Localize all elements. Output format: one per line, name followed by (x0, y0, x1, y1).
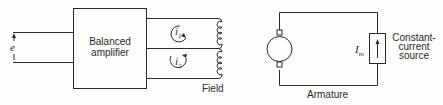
amplifier-label-line1: Balanced (74, 37, 146, 47)
current-source-arrowhead-icon (376, 39, 380, 44)
current-source-label: Constant- current source (386, 33, 442, 60)
current-i1-arrowhead-icon (181, 33, 186, 38)
motor-brush-top (277, 30, 282, 35)
field-coil-2 (217, 51, 222, 75)
current-source-label-line3: source (386, 51, 442, 60)
amplifier-label-line2: amplifier (74, 48, 146, 58)
current-i1-label: i1 (175, 26, 182, 41)
field-coil-1 (217, 21, 222, 45)
amplifier-label: Balanced amplifier (74, 37, 146, 58)
motor-armature-icon (267, 37, 292, 62)
current-i2-label: i2 (175, 56, 182, 71)
armature-wire-top (280, 13, 378, 34)
armature-current-label: Im (355, 44, 364, 59)
armature-wire-bottom (280, 63, 378, 86)
current-i2-arrowhead-icon (182, 54, 187, 58)
input-voltage-label: e (10, 42, 15, 52)
current-i1-subscript: 1 (178, 32, 182, 40)
motor-brush-bottom (277, 62, 282, 67)
armature-label: Armature (307, 90, 348, 100)
field-label: Field (202, 84, 224, 94)
current-i2-subscript: 2 (178, 62, 182, 70)
input-arrowhead-icon (12, 33, 16, 38)
armature-current-subscript: m (359, 50, 364, 58)
